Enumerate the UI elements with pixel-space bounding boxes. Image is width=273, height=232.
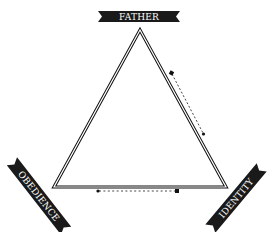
arrow-father-to-identity bbox=[169, 70, 205, 135]
arrow-identity-to-obedience bbox=[96, 189, 179, 193]
arrow-start-marker bbox=[169, 70, 174, 75]
banner-identity: IDENTITY bbox=[205, 163, 266, 232]
triangle-inner-gap bbox=[54, 30, 226, 187]
banner-father: FATHER bbox=[98, 11, 180, 22]
banner-label-obedience: OBEDIENCE bbox=[16, 169, 61, 223]
banner-label-father: FATHER bbox=[119, 12, 159, 22]
triangle-outer-edge bbox=[54, 30, 226, 187]
arrow-end-marker bbox=[202, 132, 205, 135]
arrow-dashed-line bbox=[172, 74, 203, 133]
triangle-diagram: FATHER OBEDIENCE IDENTITY bbox=[0, 0, 273, 232]
triangle bbox=[54, 30, 226, 187]
arrow-end-marker bbox=[96, 189, 99, 192]
banner-obedience: OBEDIENCE bbox=[7, 157, 71, 232]
arrow-start-marker bbox=[175, 189, 179, 193]
